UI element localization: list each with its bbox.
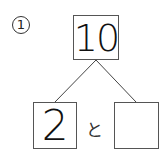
part-box-left: 2 [33, 102, 77, 149]
total-box: 10 [73, 15, 119, 60]
answer-box[interactable] [114, 102, 159, 149]
problem-number-badge: 1 [12, 16, 30, 34]
connector-text: と [86, 116, 103, 141]
